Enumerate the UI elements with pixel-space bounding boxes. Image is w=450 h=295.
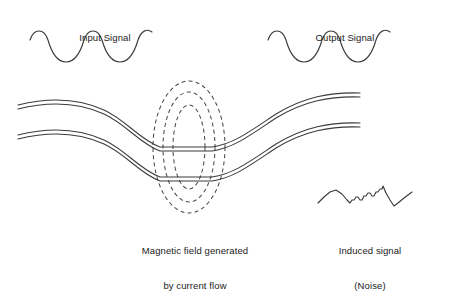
upper-conductor-line-top [18,93,360,147]
induced-noise-waveform [318,186,412,206]
lower-conductor-line-bottom [18,127,360,181]
magnetic-field-caption-line-2: by current flow [95,280,295,292]
input-signal-label: Input Signal [0,9,210,67]
lower-conductor [18,123,360,181]
magnetic-field-caption-line-1: Magnetic field generated [95,245,295,257]
input-signal-label-text: Input Signal [0,32,210,44]
lower-conductor-line-top [18,123,360,177]
induced-signal-caption-line-2: (Noise) [295,280,445,292]
output-signal-label: Output Signal [240,9,450,67]
magnetic-field-caption: Magnetic field generated by current flow [95,222,295,295]
upper-conductor-line-bottom [18,97,360,151]
induced-signal-caption-line-1: Induced signal [295,245,445,257]
induced-signal-caption: Induced signal (Noise) [295,222,445,295]
upper-conductor [18,93,360,151]
output-signal-label-text: Output Signal [240,32,450,44]
induced-noise-wave-path [318,186,412,206]
